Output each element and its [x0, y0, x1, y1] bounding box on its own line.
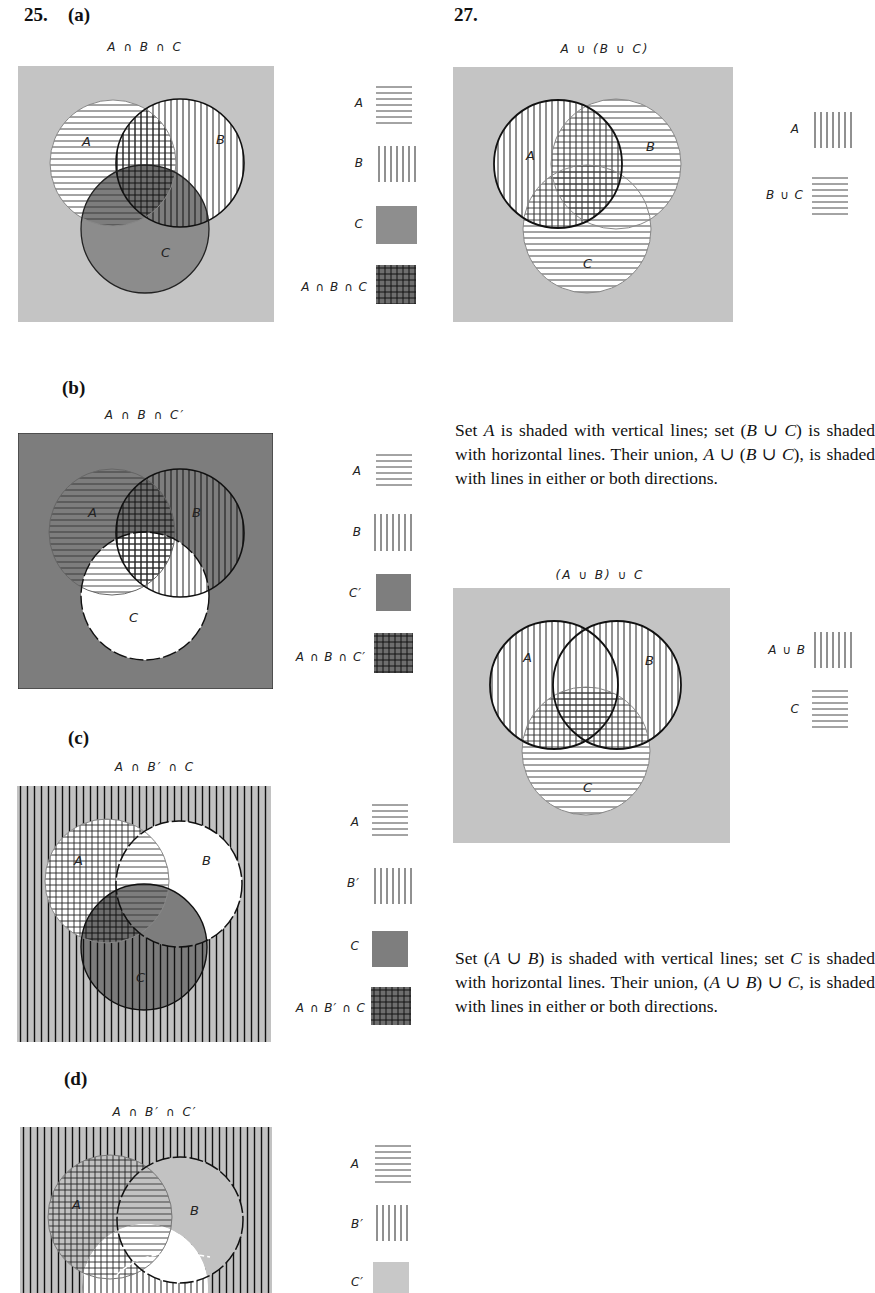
legend-label: A: [720, 122, 800, 136]
vertical-lines-swatch: [372, 514, 412, 551]
region-label-a: A: [525, 148, 535, 163]
legend-label: C: [300, 217, 364, 231]
legend-label: A ∪ B: [720, 643, 806, 657]
venn-diagram-d: A B: [20, 1127, 272, 1293]
region-label-c: C: [136, 970, 146, 985]
venn-diagram-a: A B C: [18, 66, 274, 322]
region-label-a: A: [522, 650, 532, 665]
light-gray-fill-swatch: [373, 1262, 409, 1293]
legend-label: B: [300, 525, 362, 539]
gray-fill-swatch: [376, 574, 411, 611]
horizontal-lines-swatch: [376, 452, 412, 490]
region-label-b: B: [192, 505, 201, 520]
dark-crosshatch-swatch: [371, 987, 411, 1025]
part-d-label: (d): [64, 1068, 87, 1090]
venn-diagram-c: A B C: [17, 786, 271, 1042]
legend-label: A: [300, 464, 362, 478]
vertical-lines-swatch: [374, 1205, 412, 1241]
part-b-title: A ∩ B ∩ C′: [60, 408, 230, 422]
part-b-label: (b): [62, 377, 85, 399]
region-label-b: B: [190, 1203, 199, 1218]
legend-label: C: [300, 939, 360, 953]
region-label-a: A: [73, 853, 83, 868]
region-label-c: C: [129, 610, 139, 625]
horizontal-lines-swatch: [812, 688, 848, 728]
part-a-title: A ∩ B ∩ C: [60, 40, 230, 54]
legend-label: B′: [300, 1217, 364, 1231]
vertical-lines-swatch: [812, 632, 852, 668]
region-label-a: A: [71, 1197, 81, 1212]
legend-label: A: [300, 1157, 360, 1171]
legend-label: B: [300, 156, 364, 170]
horizontal-lines-swatch: [375, 1143, 411, 1183]
vertical-lines-swatch: [376, 146, 416, 182]
dark-crosshatch-swatch: [376, 265, 416, 304]
legend-label: A ∩ B ∩ C′: [282, 650, 366, 664]
region-label-b: B: [216, 132, 225, 147]
region-label-b: B: [202, 853, 211, 868]
gray-fill-swatch: [372, 931, 408, 967]
region-label-b: B: [646, 139, 655, 154]
part-c-title: A ∩ B′ ∩ C: [70, 760, 240, 774]
legend-label: A ∩ B ∩ C: [284, 280, 368, 294]
region-label-c: C: [583, 256, 593, 271]
part-a-label: (a): [68, 4, 90, 26]
legend-label: A ∩ B′ ∩ C: [280, 1001, 366, 1015]
horizontal-lines-swatch: [812, 175, 848, 215]
venn-diagram-27-2: A B C: [453, 588, 730, 843]
region-label-a: A: [81, 134, 91, 149]
region-label-b: B: [645, 653, 654, 668]
diagram-1-title: A ∪ (B ∪ C): [535, 42, 675, 56]
dark-crosshatch-swatch: [374, 633, 413, 673]
legend-label: C′: [300, 586, 362, 600]
problem-25-number: 25.: [24, 4, 48, 26]
vertical-lines-swatch: [372, 868, 412, 904]
legend-label: A: [300, 96, 364, 110]
diagram-2-title: (A ∪ B) ∪ C: [540, 568, 660, 582]
venn-diagram-27-1: A B C: [453, 67, 733, 322]
problem-27-number: 27.: [454, 4, 478, 26]
legend-label: C′: [300, 1275, 364, 1289]
legend-label: A: [300, 815, 360, 829]
legend-label: B ∪ C: [720, 188, 804, 202]
region-label-c: C: [161, 245, 171, 260]
part-c-label: (c): [68, 727, 89, 749]
region-label-a: A: [87, 505, 97, 520]
legend-label: B′: [300, 876, 360, 890]
gray-fill-swatch: [376, 206, 417, 244]
vertical-lines-swatch: [812, 112, 852, 148]
region-label-c: C: [583, 780, 593, 795]
caption-27-1: Set A is shaded with vertical lines; set…: [455, 418, 875, 490]
horizontal-lines-swatch: [372, 802, 408, 840]
part-d-title: A ∩ B′ ∩ C′: [70, 1105, 240, 1119]
venn-diagram-b: A B C: [18, 433, 273, 689]
caption-27-2: Set (A ∪ B) is shaded with vertical line…: [455, 946, 875, 1018]
legend-label: C: [720, 702, 800, 716]
horizontal-lines-swatch: [376, 84, 412, 124]
